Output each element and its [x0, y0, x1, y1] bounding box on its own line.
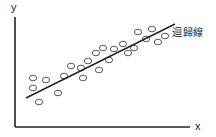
regression-line-label: 迴歸線	[172, 28, 204, 38]
data-point	[124, 50, 131, 56]
x-axis-label: x	[195, 121, 201, 132]
regression-line	[26, 24, 175, 98]
data-point	[54, 90, 61, 96]
data-point	[42, 77, 49, 83]
y-axis-label: y	[11, 2, 17, 13]
data-point	[134, 29, 141, 35]
data-point	[29, 75, 36, 81]
data-point	[110, 46, 117, 52]
data-point	[154, 39, 161, 45]
data-point	[119, 41, 126, 47]
data-point	[67, 63, 74, 69]
data-point	[35, 99, 42, 105]
scatter-diagram	[0, 0, 216, 137]
data-point	[161, 33, 168, 39]
data-point	[148, 26, 155, 32]
data-point	[95, 67, 102, 73]
data-point	[84, 58, 91, 64]
data-point	[79, 75, 86, 81]
data-point	[29, 85, 36, 91]
data-point	[92, 50, 99, 56]
data-point	[99, 45, 106, 51]
